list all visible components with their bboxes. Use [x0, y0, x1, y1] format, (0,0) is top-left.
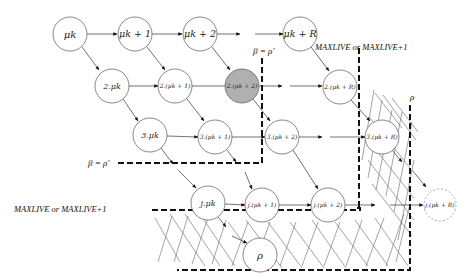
edge: [167, 136, 198, 137]
node-n11: μk: [53, 17, 87, 51]
hatched-region: [155, 90, 418, 268]
node-label: j.(μk + R): [423, 201, 455, 209]
node-label: 2.μk: [102, 82, 121, 91]
node-label: 3.(μk + 1): [200, 133, 231, 141]
beta-label-left: β = ρ': [87, 158, 110, 168]
node-label: μk: [64, 29, 77, 40]
edge: [412, 170, 426, 187]
edge: [212, 47, 230, 70]
edge: [232, 236, 247, 243]
node-nj2: j.(μk + 1): [245, 188, 279, 222]
node-label: μk + 1: [119, 28, 151, 39]
edge: [245, 172, 252, 189]
node-rho: ρ: [243, 238, 277, 272]
node-nj3: j.(μk + 2): [311, 188, 345, 222]
node-n13: μk + 2: [183, 17, 217, 51]
node-label: j.μk: [198, 199, 215, 208]
node-n33: 3.(μk + 2): [265, 120, 299, 154]
node-n3R: 3.(μk + R): [365, 120, 399, 154]
edge: [123, 99, 138, 121]
node-label: μk + 2: [184, 28, 216, 39]
lattice-diagram: μkμk + 1μk + 2μk + R2.μk2.(μk + 1)2.(μk …: [0, 0, 469, 279]
node-label: j.(μk + 2): [312, 201, 343, 209]
node-njR: j.(μk + R): [423, 189, 456, 221]
node-label: 3.(μk + R): [366, 133, 398, 141]
edge: [161, 148, 173, 164]
edge: [227, 150, 236, 162]
node-nj1: j.μk: [191, 186, 225, 220]
beta-label-top: β = ρ': [252, 46, 275, 56]
node-label: 3.μk: [141, 131, 159, 140]
node-n22: 2.(μk + 1): [158, 69, 192, 103]
hatch-bottom-back: [155, 214, 408, 268]
node-n31: 3.μk: [133, 118, 167, 152]
node-label: 2.(μk + R): [323, 83, 356, 91]
node-n1R: μk + R: [283, 17, 317, 51]
maxlive-label-top: MAXLIVE or MAXLIVE+1: [314, 42, 408, 52]
node-label: 2.(μk + 2): [226, 82, 258, 90]
edge: [147, 47, 165, 70]
edge: [293, 150, 318, 189]
edge: [218, 217, 226, 227]
node-n23: 2.(μk + 2): [225, 69, 259, 103]
rho-label-right: ρ: [409, 92, 415, 102]
node-label: μk + R: [283, 28, 316, 39]
edge: [187, 99, 204, 121]
node-n21: 2.μk: [95, 69, 129, 103]
node-n2R: 2.(μk + R): [323, 70, 357, 104]
edge: [351, 100, 370, 121]
maxlive-label-left: MAXLIVE or MAXLIVE+1: [13, 204, 107, 214]
node-label: 2.(μk + 1): [159, 82, 191, 90]
node-label: 3.(μk + 2): [267, 133, 298, 141]
edge: [178, 170, 196, 188]
node-n12: μk + 1: [118, 17, 152, 51]
edge: [82, 47, 99, 70]
node-label: ρ: [256, 250, 263, 261]
edge: [225, 204, 245, 205]
node-label: j.(μk + 1): [246, 201, 277, 209]
node-n32: 3.(μk + 1): [198, 120, 232, 154]
